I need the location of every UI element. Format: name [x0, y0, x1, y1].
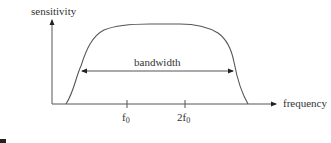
frequency-response-diagram: sensitivity frequency bandwidth f0 2f0: [0, 0, 331, 143]
bandwidth-label: bandwidth: [134, 57, 180, 68]
tick-label-f0: f0: [122, 112, 130, 125]
y-axis-label: sensitivity: [31, 6, 76, 17]
x-axis-label: frequency: [283, 98, 327, 109]
tick-label-2f0: 2f0: [177, 112, 190, 125]
diagram-graphics: [0, 0, 331, 143]
corner-mark: [0, 139, 6, 143]
